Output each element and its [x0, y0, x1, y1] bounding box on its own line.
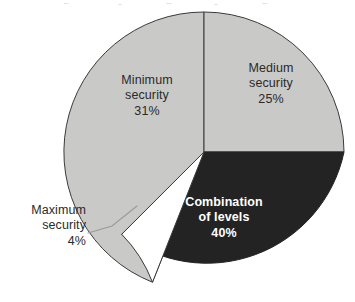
pie-label-minimum-security: Minimum security 31%: [101, 73, 193, 119]
pie-label-combination-of-levels: Combination of levels 40%: [167, 195, 281, 241]
scan-artifact: [262, 3, 267, 4]
pie-label-maximum-security-value: 4%: [2, 234, 86, 249]
scan-artifact: [118, 4, 122, 5]
pie-label-combination-of-levels-value: 40%: [167, 226, 281, 241]
pie-label-combination-of-levels-line2: of levels: [167, 210, 281, 225]
pie-label-combination-of-levels-line1: Combination: [167, 195, 281, 210]
scan-artifact: [166, 3, 172, 4]
pie-label-medium-security-line1: Medium: [228, 61, 314, 76]
pie-label-maximum-security: Maximum security 4%: [2, 203, 86, 249]
pie-label-minimum-security-value: 31%: [101, 104, 193, 119]
pie-chart-canvas: [0, 0, 355, 302]
pie-label-maximum-security-line2: security: [2, 218, 86, 233]
pie-label-minimum-security-line1: Minimum: [101, 73, 193, 88]
pie-label-medium-security-value: 25%: [228, 92, 314, 107]
pie-label-medium-security-line2: security: [228, 76, 314, 91]
pie-label-minimum-security-line2: security: [101, 88, 193, 103]
pie-chart: Medium security 25% Minimum security 31%…: [0, 0, 355, 302]
scan-artifact: [214, 4, 218, 5]
pie-label-medium-security: Medium security 25%: [228, 61, 314, 107]
pie-label-maximum-security-line1: Maximum: [2, 203, 86, 218]
scan-artifact: [64, 3, 69, 4]
